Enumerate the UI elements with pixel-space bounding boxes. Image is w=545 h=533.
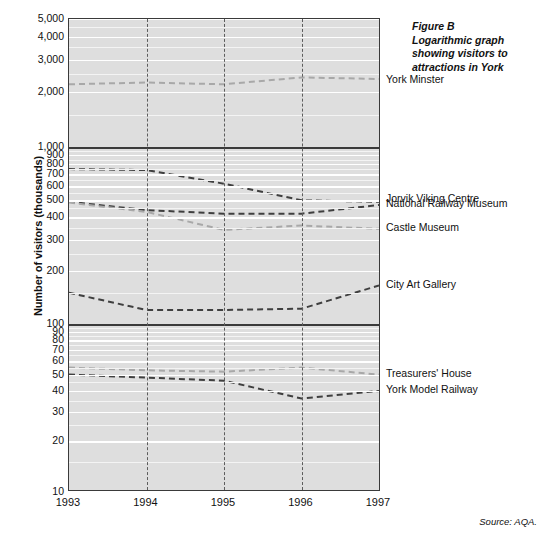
x-tick-1996: 1996 <box>271 496 331 508</box>
caption-line-3: showing visitors to <box>412 47 540 61</box>
y-tick-30: 30 <box>52 406 64 416</box>
y-tick-20: 20 <box>52 435 64 445</box>
x-tick-1994: 1994 <box>116 496 176 508</box>
y-tick-5000: 5,000 <box>38 13 64 23</box>
caption-line-2: Logarithmic graph <box>412 34 540 48</box>
y-axis-title: Number of visitors (thousands) <box>32 121 44 351</box>
y-tick-900: 900 <box>46 149 64 159</box>
y-tick-60: 60 <box>52 355 64 365</box>
y-tick-3000: 3,000 <box>38 54 64 64</box>
vertical-gridline-1994 <box>147 19 148 490</box>
caption-line-4: attractions in York <box>412 61 540 75</box>
y-tick-70: 70 <box>52 344 64 354</box>
figure-caption: Figure BLogarithmic graphshowing visitor… <box>412 20 540 74</box>
y-tick-100: 100 <box>46 318 64 328</box>
y-tick-50: 50 <box>52 369 64 379</box>
x-tick-1997: 1997 <box>348 496 408 508</box>
series-label-castle-museum: Castle Museum <box>386 222 459 233</box>
x-tick-1993: 1993 <box>38 496 98 508</box>
y-tick-800: 800 <box>46 158 64 168</box>
y-tick-400: 400 <box>46 211 64 221</box>
y-tick-600: 600 <box>46 180 64 190</box>
vertical-gridline-1996 <box>302 19 303 490</box>
series-label-york-model-railway: York Model Railway <box>386 384 478 395</box>
y-tick-90: 90 <box>52 326 64 336</box>
figure-container: Number of visitors (thousands) 5,0004,00… <box>0 0 545 533</box>
y-tick-80: 80 <box>52 334 64 344</box>
caption-line-1: Figure B <box>412 20 540 34</box>
y-tick-40: 40 <box>52 385 64 395</box>
source-note: Source: AQA. <box>479 516 537 527</box>
series-label-york-minster: York Minster <box>386 74 444 85</box>
y-tick-500: 500 <box>46 194 64 204</box>
y-tick-2000: 2,000 <box>38 86 64 96</box>
y-tick-200: 200 <box>46 265 64 275</box>
x-tick-1995: 1995 <box>193 496 253 508</box>
y-tick-4000: 4,000 <box>38 31 64 41</box>
y-tick-300: 300 <box>46 234 64 244</box>
series-label-city-art-gallery: City Art Gallery <box>386 279 456 290</box>
vertical-gridline-1995 <box>224 19 225 490</box>
y-tick-10: 10 <box>52 486 64 496</box>
chart-plot-area <box>68 18 380 491</box>
y-tick-700: 700 <box>46 168 64 178</box>
series-label-treasurers-house: Treasurers' House <box>386 368 472 379</box>
series-label-national-railway: National Railway Museum <box>386 198 507 209</box>
